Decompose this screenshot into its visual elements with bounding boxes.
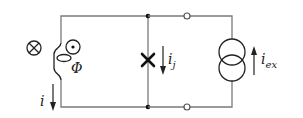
- top-right-wire: [148, 16, 232, 39]
- dot-circle-icon: [66, 40, 80, 54]
- circuit-diagram: Φ i ij iex: [0, 0, 303, 118]
- left-branch: [54, 16, 148, 107]
- cross-circle-icon: [27, 41, 41, 55]
- external-current-label: iex: [261, 51, 277, 70]
- loop-current-label: i: [40, 93, 44, 109]
- external-current-arrow: [251, 46, 257, 75]
- junction-branch: [142, 14, 154, 110]
- bottom-terminal: [184, 104, 190, 110]
- bottom-right-wire: [148, 81, 232, 107]
- junction-current-label: ij: [168, 51, 176, 70]
- flux-label: Φ: [71, 60, 82, 76]
- top-terminal: [184, 13, 190, 19]
- current-source-icon: [219, 39, 245, 81]
- inductor-loop: [57, 55, 71, 62]
- junction-current-arrow: [160, 46, 166, 75]
- loop-current-arrow: [50, 84, 56, 111]
